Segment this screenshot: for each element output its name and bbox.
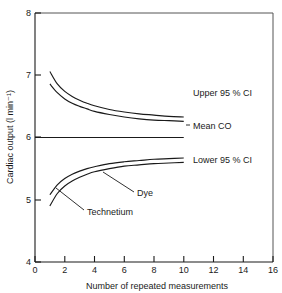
y-tick-label-5: 5 [26, 195, 31, 205]
annotation-technetium: Technetium [87, 207, 133, 217]
curve-upper-ci-dye [50, 72, 184, 117]
x-tick-label-10: 10 [179, 265, 189, 275]
x-tick-label-14: 14 [238, 265, 248, 275]
leader-dye [103, 172, 134, 192]
y-tick-label-7: 7 [26, 70, 31, 80]
x-tick-label-6: 6 [122, 265, 127, 275]
annotation-dye: Dye [137, 188, 153, 198]
leader-technetium [56, 188, 84, 210]
x-tick-label-16: 16 [268, 265, 278, 275]
y-tick-label-6: 6 [26, 132, 31, 142]
y-axis-tick-labels: 8 7 6 5 4 [26, 8, 31, 267]
x-tick-label-2: 2 [62, 265, 67, 275]
annotations: Upper 95 % CI Mean CO Lower 95 % CI Dye … [87, 88, 252, 217]
data-curves [35, 72, 184, 206]
cardiac-output-figure: 8 7 6 5 4 0 2 4 6 8 10 12 14 [0, 0, 282, 293]
y-tick-label-4: 4 [26, 257, 31, 267]
annotation-upper-ci: Upper 95 % CI [193, 88, 252, 98]
x-tick-label-4: 4 [92, 265, 97, 275]
x-tick-label-12: 12 [208, 265, 218, 275]
annotation-mean-co: Mean CO [193, 121, 232, 131]
y-tick-label-8: 8 [26, 8, 31, 18]
annotation-lower-ci: Lower 95 % CI [193, 155, 252, 165]
x-tick-label-0: 0 [32, 265, 37, 275]
y-axis-title: Cardiac output (l min⁻¹) [5, 90, 15, 184]
x-axis-ticks [35, 256, 273, 262]
x-axis-tick-labels: 0 2 4 6 8 10 12 14 16 [32, 265, 278, 275]
x-tick-label-8: 8 [151, 265, 156, 275]
chart-canvas: 8 7 6 5 4 0 2 4 6 8 10 12 14 [0, 0, 282, 293]
x-axis-title: Number of repeated measurements [86, 281, 229, 291]
